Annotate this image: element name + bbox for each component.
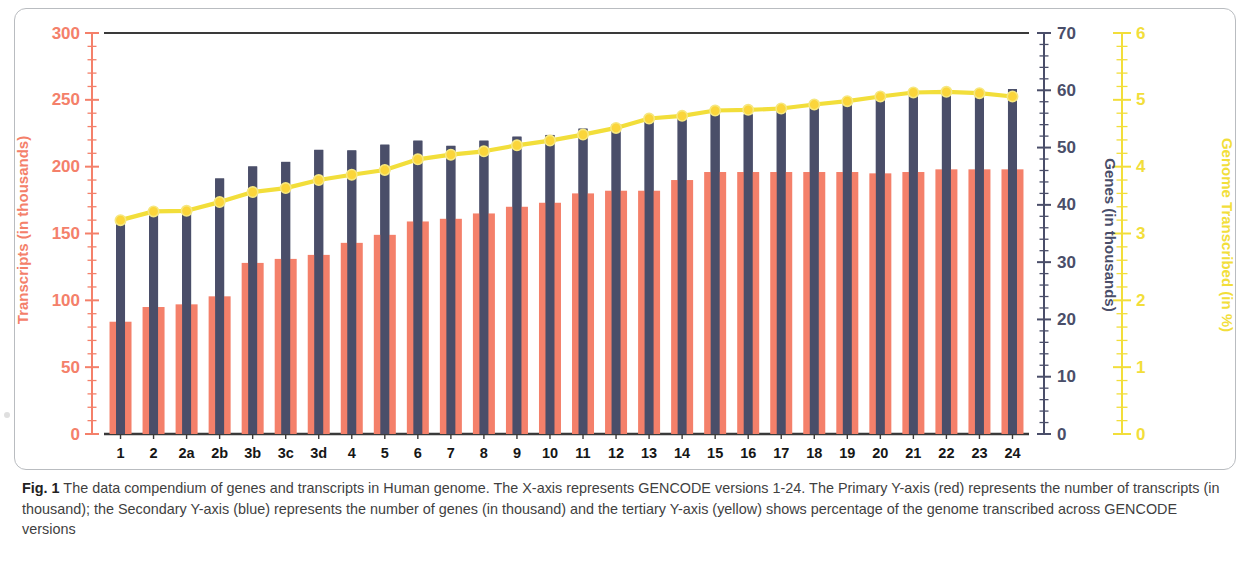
genome-data-point (247, 187, 257, 197)
genes-bar-overlay (645, 119, 654, 434)
genome-data-point (875, 91, 885, 101)
primary-y-tick-label: 200 (52, 157, 80, 176)
x-tick-label: 3b (244, 445, 261, 461)
genes-bar-overlay (843, 102, 852, 434)
secondary-y-tick-label: 10 (1057, 367, 1076, 386)
genes-bar-overlay (479, 141, 488, 434)
tertiary-y-tick-label: 3 (1136, 224, 1145, 243)
genome-data-point (677, 111, 687, 121)
x-tick-label: 8 (480, 445, 488, 461)
x-tick-label: 15 (707, 445, 723, 461)
x-tick-label: 19 (839, 445, 855, 461)
x-tick-label: 12 (608, 445, 624, 461)
primary-y-tick-label: 0 (71, 425, 80, 444)
genes-bar-overlay (678, 118, 687, 434)
genome-data-point (974, 88, 984, 98)
x-tick-labels-group: 122a2b3b3c3d4567891011121314151617181920… (116, 445, 1020, 461)
figure-caption-text: The data compendium of genes and transcr… (22, 480, 1219, 537)
x-tick-label: 9 (513, 445, 521, 461)
primary-y-axis-title: Transcripts (in thousands) (14, 136, 31, 324)
genome-data-point (743, 105, 753, 115)
genome-data-point (512, 140, 522, 150)
genes-bar-overlay (116, 224, 125, 434)
secondary-y-tick-label: 20 (1057, 310, 1076, 329)
genome-data-point (479, 146, 489, 156)
genome-data-point (1007, 91, 1017, 101)
x-tick-label: 2a (179, 445, 196, 461)
genome-data-point (347, 169, 357, 179)
genome-data-point (611, 123, 621, 133)
genome-data-point (314, 175, 324, 185)
transcripts-bars-group (110, 89, 1024, 434)
genes-bar-overlay (711, 113, 720, 434)
secondary-y-tick-label: 30 (1057, 253, 1076, 272)
x-tick-label: 22 (938, 445, 954, 461)
chart-svg: 0501001502002503000102030405060700123456… (0, 0, 1250, 475)
genes-bar-overlay (942, 90, 951, 434)
genome-data-point (413, 154, 423, 164)
x-tick-label: 18 (806, 445, 822, 461)
x-tick-label: 17 (773, 445, 789, 461)
genes-bar-overlay (347, 150, 356, 434)
genes-bar-overlay (876, 99, 885, 434)
x-tick-label: 10 (542, 445, 558, 461)
tertiary-y-tick-label: 0 (1136, 425, 1145, 444)
tertiary-y-tick-label: 1 (1136, 358, 1145, 377)
x-tick-label: 20 (872, 445, 888, 461)
secondary-y-tick-label: 70 (1057, 24, 1076, 43)
figure-page: 0501001502002503000102030405060700123456… (0, 0, 1250, 563)
tertiary-y-tick-label: 2 (1136, 291, 1145, 310)
tertiary-y-tick-label: 4 (1136, 157, 1146, 176)
genome-data-point (941, 87, 951, 97)
x-tick-label: 2 (150, 445, 158, 461)
genes-bar-overlay (149, 213, 158, 434)
genes-bar-overlay (975, 90, 984, 434)
x-tick-label: 24 (1004, 445, 1020, 461)
genes-bar-overlay (909, 91, 918, 434)
chart-plot-area: 0501001502002503000102030405060700123456… (0, 0, 1250, 475)
tertiary-y-tick-label: 5 (1136, 90, 1145, 109)
genome-data-point (908, 87, 918, 97)
genome-data-point (380, 165, 390, 175)
x-tick-label: 13 (641, 445, 657, 461)
tertiary-y-axis-title: Genome Transcribed (in %) (1219, 138, 1236, 332)
genome-data-point (148, 206, 158, 216)
genes-bar-overlay (281, 162, 290, 434)
genome-data-point (115, 215, 125, 225)
secondary-y-tick-label: 0 (1057, 425, 1066, 444)
primary-y-tick-label: 100 (52, 291, 80, 310)
genes-bar-overlay (413, 141, 422, 434)
genes-bar-overlay (215, 179, 224, 434)
genome-data-point (710, 105, 720, 115)
x-tick-label: 3c (278, 445, 294, 461)
figure-caption: Fig. 1 The data compendium of genes and … (22, 478, 1232, 540)
primary-y-tick-label: 50 (61, 358, 80, 377)
genome-data-point (181, 206, 191, 216)
genome-data-point (214, 197, 224, 207)
genes-bar-overlay (1008, 89, 1017, 434)
genome-data-point (809, 99, 819, 109)
genes-bar-overlay (744, 114, 753, 434)
secondary-y-tick-label: 40 (1057, 195, 1076, 214)
secondary-y-tick-label: 50 (1057, 138, 1076, 157)
x-tick-label: 16 (740, 445, 756, 461)
x-tick-label: 5 (381, 445, 389, 461)
genes-bar-overlay (810, 106, 819, 434)
genome-data-point (842, 96, 852, 106)
x-tick-label: 7 (447, 445, 455, 461)
x-tick-label: 3d (310, 445, 327, 461)
genes-bar-overlay (314, 150, 323, 434)
x-tick-label: 21 (905, 445, 921, 461)
x-tick-label: 4 (348, 445, 356, 461)
x-tick-label: 2b (211, 445, 228, 461)
genes-bar-overlay (380, 145, 389, 434)
x-tick-label: 1 (116, 445, 124, 461)
genome-data-point (578, 129, 588, 139)
primary-y-tick-label: 300 (52, 24, 80, 43)
primary-y-tick-label: 150 (52, 224, 80, 243)
genome-data-point (644, 113, 654, 123)
genes-bar-overlay (182, 212, 191, 434)
x-tick-label: 14 (674, 445, 690, 461)
genes-bar-overlay (612, 125, 621, 434)
genome-data-point (776, 103, 786, 113)
